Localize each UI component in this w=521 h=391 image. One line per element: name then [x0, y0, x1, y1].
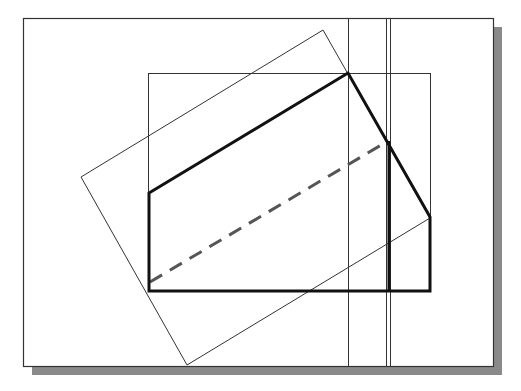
- diagram-canvas: [0, 0, 521, 391]
- outer-frame: [24, 19, 494, 367]
- geometry-diagram: [0, 0, 521, 391]
